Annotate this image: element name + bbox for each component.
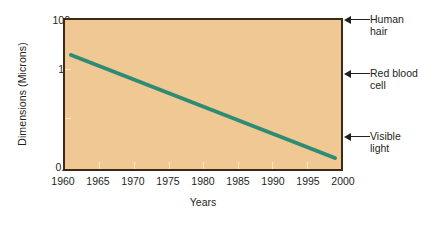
x-tick-label-1990: 1990 — [253, 176, 293, 187]
annotation-label-red-blood-cell: Red blood cell — [370, 68, 418, 91]
x-tick-label-1975: 1975 — [148, 176, 188, 187]
x-tick-label-1965: 1965 — [78, 176, 118, 187]
annotation-label-human-hair: Human hair — [370, 14, 404, 37]
chart-figure: Dimensions (Microns) 100 10 1 0.1 1960 1… — [0, 0, 422, 226]
x-tick-label-1970: 1970 — [113, 176, 153, 187]
series-segment — [71, 55, 335, 158]
arrow-left-icon — [344, 68, 370, 79]
annotation-label-visible-light: Visible light — [370, 131, 401, 154]
annotation-red-blood-cell: Red blood cell — [344, 68, 418, 91]
x-tick-label-1980: 1980 — [183, 176, 223, 187]
x-tick-label-2000: 2000 — [323, 176, 363, 187]
x-axis-title: Years — [63, 196, 343, 208]
arrow-left-icon — [344, 131, 370, 142]
x-tick-label-1995: 1995 — [288, 176, 328, 187]
series-line-feature-size — [65, 20, 341, 169]
x-tick-label-1960: 1960 — [43, 176, 83, 187]
y-axis-title: Dimensions (Microns) — [16, 14, 28, 174]
annotation-human-hair: Human hair — [344, 14, 404, 37]
plot-area — [63, 18, 343, 171]
annotation-visible-light: Visible light — [344, 131, 401, 154]
x-tick-label-1985: 1985 — [218, 176, 258, 187]
plot-inner — [65, 20, 341, 169]
arrow-left-icon — [344, 14, 370, 25]
x-axis-tick-labels: 1960 1965 1970 1975 1980 1985 1990 1995 … — [63, 176, 343, 190]
